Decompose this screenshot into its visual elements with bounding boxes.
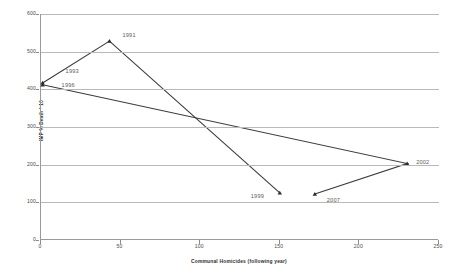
x-axis-tick-mark — [358, 240, 359, 244]
y-axis-tick-labels: 0100200300400500600 — [0, 14, 36, 240]
y-axis-tick-label: 600 — [2, 11, 36, 16]
grid-line — [41, 165, 439, 166]
y-axis-tick-mark — [36, 14, 39, 15]
x-axis-tick-mark — [40, 240, 41, 244]
plot-area — [40, 14, 438, 240]
y-axis-tick-label: 300 — [2, 124, 36, 129]
data-point-label: 1999 — [251, 194, 264, 200]
x-axis-tick-label: 50 — [100, 244, 140, 249]
data-point-label: 1993 — [66, 69, 79, 75]
x-axis-tick-mark — [120, 240, 121, 244]
y-axis-tick-label: 0 — [2, 237, 36, 242]
grid-line — [41, 52, 439, 53]
data-point-label: 2007 — [327, 198, 340, 204]
y-axis-tick-mark — [36, 240, 39, 241]
y-axis-tick-label: 200 — [2, 162, 36, 167]
y-axis-tick-mark — [36, 202, 39, 203]
y-axis-tick-mark — [36, 127, 39, 128]
grid-line — [41, 127, 439, 128]
y-axis-tick-mark — [36, 52, 39, 53]
y-axis-tick-label: 500 — [2, 49, 36, 54]
x-axis-tick-label: 0 — [20, 244, 60, 249]
x-axis-tick-labels: 050100150200250 — [40, 244, 438, 254]
x-axis-title: Communal Homicides (following year) — [40, 259, 438, 264]
x-axis-tick-label: 250 — [418, 244, 458, 249]
x-axis-tick-label: 150 — [259, 244, 299, 249]
series-line — [43, 85, 408, 194]
grid-line — [41, 202, 439, 203]
x-axis-tick-label: 200 — [338, 244, 378, 249]
y-axis-tick-label: 100 — [2, 199, 36, 204]
y-axis-tick-mark — [36, 89, 39, 90]
data-point-label: 1991 — [122, 33, 135, 39]
grid-line — [41, 89, 439, 90]
x-axis-tick-mark — [199, 240, 200, 244]
data-point-label: 1996 — [62, 83, 75, 89]
data-point-label: 2002 — [416, 160, 429, 166]
x-axis-tick-mark — [279, 240, 280, 244]
grid-line — [41, 14, 439, 15]
y-axis-tick-label: 400 — [2, 86, 36, 91]
series-line — [43, 41, 280, 193]
chart-container: IMP % Death * 10 0100200300400500600 050… — [0, 0, 459, 280]
x-axis-tick-label: 100 — [179, 244, 219, 249]
x-axis-tick-mark — [438, 240, 439, 244]
data-point-marker — [107, 39, 111, 43]
y-axis-tick-mark — [36, 165, 39, 166]
